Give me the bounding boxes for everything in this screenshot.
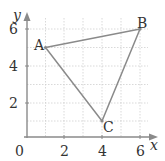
vertex-label-c: C	[103, 119, 114, 135]
vertex-label-a: A	[33, 37, 45, 53]
y-axis-label: y	[12, 7, 22, 23]
y-tick-6: 6	[9, 21, 18, 37]
x-tick-4: 4	[98, 143, 107, 159]
y-tick-4: 4	[9, 58, 18, 74]
x-tick-6: 6	[136, 143, 145, 159]
x-axis-label: x	[150, 137, 158, 153]
axes	[24, 18, 152, 138]
origin-label: 0	[15, 143, 24, 159]
y-axis-arrow-icon	[24, 12, 31, 21]
coordinate-plane: 0 2 4 6 2 4 6 x y A B C	[0, 0, 165, 161]
x-tick-2: 2	[60, 143, 69, 159]
triangle-abc	[46, 29, 141, 121]
y-tick-2: 2	[9, 95, 18, 111]
grid	[27, 18, 148, 137]
vertex-label-b: B	[137, 15, 147, 31]
point-a	[44, 46, 47, 49]
